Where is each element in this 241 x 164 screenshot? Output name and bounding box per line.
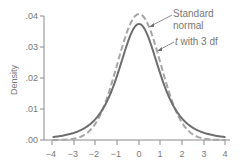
y-tick-label: .03 [25, 42, 38, 52]
y-tick-labels: .00 .01 .02 .03 .04 [25, 11, 38, 145]
y-ticks [40, 16, 44, 140]
normal-label-line2: normal [173, 20, 204, 31]
x-tick-label: 3 [201, 149, 206, 159]
normal-label-line1: Standard [173, 8, 214, 19]
chart-svg: .00 .01 .02 .03 .04 Density −4 −3 −2 −1 … [0, 0, 241, 164]
x-tick-label: −1 [111, 149, 121, 159]
x-tick-label: −4 [46, 149, 56, 159]
t-label-rest: with 3 df [178, 36, 218, 47]
y-axis-label: Density [9, 64, 19, 95]
x-tick-label: −2 [89, 149, 99, 159]
y-tick-label: .04 [25, 11, 38, 21]
x-tick-labels: −4 −3 −2 −1 0 1 2 3 4 [46, 149, 228, 159]
y-tick-label: .02 [25, 73, 38, 83]
y-tick-label: .01 [25, 104, 38, 114]
y-tick-label: .00 [25, 135, 38, 145]
t-label: t with 3 df [175, 36, 218, 47]
x-tick-label: −3 [68, 149, 78, 159]
standard-normal-curve [53, 14, 226, 140]
x-tick-label: 1 [157, 149, 162, 159]
normal-pointer-line [151, 15, 172, 26]
x-tick-label: 4 [222, 149, 227, 159]
x-tick-label: 2 [179, 149, 184, 159]
t-pointer-arrow-icon [157, 47, 162, 51]
density-chart: .00 .01 .02 .03 .04 Density −4 −3 −2 −1 … [0, 0, 241, 164]
x-ticks [52, 140, 225, 145]
x-tick-label: 0 [136, 149, 141, 159]
